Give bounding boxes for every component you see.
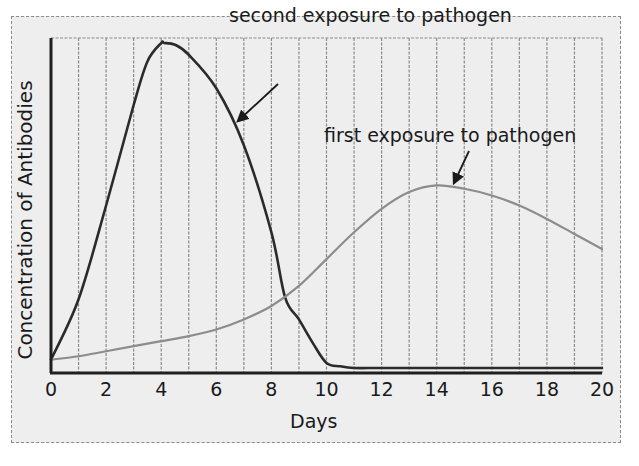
x-tick-label: 2	[100, 378, 112, 400]
x-tick-label: 8	[265, 378, 277, 400]
x-tick-label: 6	[210, 378, 222, 400]
annotation-first-exposure: first exposure to pathogen	[324, 124, 576, 146]
x-tick-label: 4	[155, 378, 167, 400]
x-axis-label: Days	[290, 410, 337, 432]
x-tick-label: 20	[590, 378, 614, 400]
y-axis-label: Concentration of Antibodies	[13, 60, 43, 380]
x-tick-label: 0	[45, 378, 57, 400]
annotation-second-exposure: second exposure to pathogen	[229, 4, 512, 26]
x-tick-label: 14	[425, 378, 449, 400]
x-tick-label: 16	[480, 378, 504, 400]
x-tick-label: 12	[370, 378, 394, 400]
x-tick-label: 18	[535, 378, 559, 400]
x-tick-label: 10	[314, 378, 338, 400]
arrow-first-exposure	[454, 151, 469, 183]
